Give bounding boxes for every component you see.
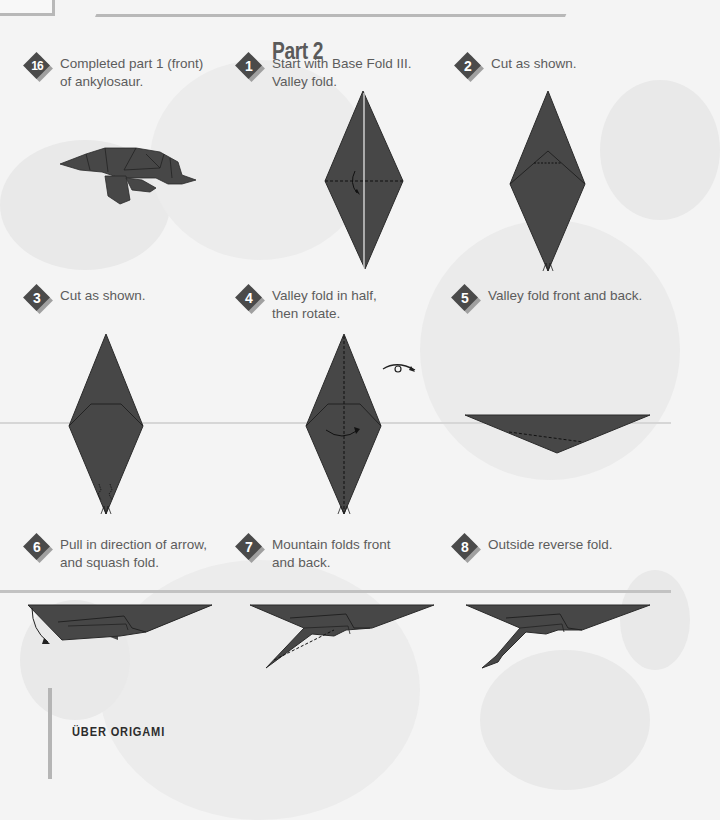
squash-fold-icon xyxy=(28,604,214,676)
step-number-badge: 2 xyxy=(457,55,485,83)
step-3: 3 Cut as shown. xyxy=(26,287,146,315)
step-instruction: Pull in direction of arrow, and squash f… xyxy=(60,536,207,572)
header-frame xyxy=(95,0,578,17)
footer-accent-bar xyxy=(48,688,52,779)
step-8: 8 Outside reverse fold. xyxy=(454,536,613,564)
diamond-cut-icon xyxy=(510,91,586,271)
background-blob xyxy=(480,650,650,790)
ankylosaur-front-icon xyxy=(60,140,200,210)
step-instruction: Mountain folds front and back. xyxy=(272,536,391,572)
step-instruction: Valley fold front and back. xyxy=(488,287,642,305)
step-instruction: Cut as shown. xyxy=(491,55,577,73)
step-number-badge: 1 xyxy=(238,55,266,83)
step-instruction: Start with Base Fold III. Valley fold. xyxy=(272,55,412,91)
header-frame-left xyxy=(0,0,55,16)
background-blob xyxy=(100,560,420,820)
step-2: 2 Cut as shown. xyxy=(457,55,577,83)
step-number-badge: 16 xyxy=(26,55,54,83)
step-6: 6 Pull in direction of arrow, and squash… xyxy=(26,536,207,572)
step-1: 1 Start with Base Fold III. Valley fold. xyxy=(238,55,412,91)
mountain-fold-icon xyxy=(250,604,436,670)
step-4: 4 Valley fold in half, then rotate. xyxy=(238,287,377,323)
step-instruction: Valley fold in half, then rotate. xyxy=(272,287,377,323)
step-number-badge: 4 xyxy=(238,287,266,315)
step-number-badge: 5 xyxy=(454,287,482,315)
step-instruction: Completed part 1 (front) of ankylosaur. xyxy=(60,55,203,91)
step-16: 16 Completed part 1 (front) of ankylosau… xyxy=(26,55,203,91)
step-7: 7 Mountain folds front and back. xyxy=(238,536,391,572)
book-title: ÜBER ORIGAMI xyxy=(72,724,165,739)
step-5: 5 Valley fold front and back. xyxy=(454,287,642,315)
step-number-badge: 3 xyxy=(26,287,54,315)
triangle-valley-fold-icon xyxy=(465,414,651,456)
view-eye-icon xyxy=(381,360,417,378)
diamond-fold-half-icon xyxy=(306,334,382,514)
diamond-base-fold-icon xyxy=(325,91,405,271)
step-instruction: Outside reverse fold. xyxy=(488,536,613,554)
row-divider xyxy=(0,590,671,593)
step-number-badge: 7 xyxy=(238,536,266,564)
background-blob xyxy=(600,80,720,220)
outside-reverse-fold-icon xyxy=(466,604,652,670)
step-number-badge: 6 xyxy=(26,536,54,564)
step-number-badge: 8 xyxy=(454,536,482,564)
diamond-cut-bottom-icon xyxy=(69,334,145,514)
step-instruction: Cut as shown. xyxy=(60,287,146,305)
